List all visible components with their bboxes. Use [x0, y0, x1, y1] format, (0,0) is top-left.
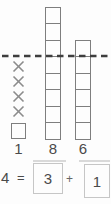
unit-square [11, 123, 26, 139]
unit-square [45, 40, 61, 58]
unit-square [45, 106, 61, 124]
equation-lhs: 4 [1, 170, 9, 186]
stack-column-1 [11, 60, 26, 139]
scan-artifact-line [79, 160, 110, 162]
answer-box-addend1[interactable]: 3 [33, 163, 63, 194]
unit-square [75, 106, 91, 124]
answer-box-addend2[interactable]: 1 [84, 164, 110, 198]
equals-sign: = [17, 170, 25, 186]
block-stack-worksheet: 1 8 6 4 = 3 + 1 [0, 0, 111, 204]
stack-column-2 [45, 7, 61, 141]
unit-square [45, 89, 61, 107]
unit-square [75, 122, 91, 140]
x-mark-icon [12, 60, 25, 73]
unit-square [75, 56, 91, 74]
stack-column-3 [75, 40, 91, 141]
unit-square [75, 73, 91, 91]
column-label-2: 8 [45, 141, 61, 157]
column-label-1: 1 [11, 141, 26, 157]
unit-square [45, 23, 61, 41]
unit-square [45, 56, 61, 74]
unit-square [75, 40, 91, 58]
x-mark-icon [12, 105, 25, 118]
unit-square [45, 122, 61, 140]
unit-square [45, 73, 61, 91]
plus-sign: + [66, 171, 73, 187]
x-mark-icon [12, 75, 25, 88]
unit-square [75, 89, 91, 107]
unit-square [45, 7, 61, 25]
scan-artifact-line [33, 160, 66, 162]
x-mark-icon [12, 90, 25, 103]
column-label-3: 6 [75, 141, 91, 157]
